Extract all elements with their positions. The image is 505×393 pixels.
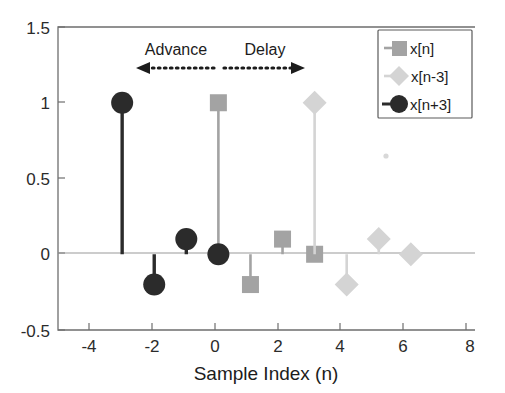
y-tick-label-0: 0 xyxy=(41,245,50,264)
legend[interactable]: x[n] x[n-3] x[n+3] xyxy=(378,30,472,118)
series-xn3 xyxy=(111,92,229,296)
square-marker-icon xyxy=(392,41,407,56)
circle-marker xyxy=(143,274,165,296)
x-tick-marks xyxy=(89,323,466,330)
y-tick-label-neg0p5: -0.5 xyxy=(21,322,50,341)
series-xn xyxy=(210,94,323,293)
square-marker xyxy=(210,94,227,111)
circle-marker xyxy=(207,243,229,265)
y-tick-label-1p5: 1.5 xyxy=(26,19,50,38)
circle-marker-icon xyxy=(390,95,408,113)
diamond-marker xyxy=(303,91,327,115)
delay-arrow-head xyxy=(291,62,305,74)
scan-artifact-speck xyxy=(383,153,388,158)
x-tick-label-neg2: -2 xyxy=(144,337,159,356)
circle-marker xyxy=(175,228,197,250)
diamond-marker xyxy=(367,227,391,251)
diamond-marker xyxy=(399,242,423,266)
stem-plot-figure: 1.5 1 0.5 0 -0.5 -4 -2 0 2 4 6 8 Sample … xyxy=(0,0,505,393)
diamond-marker xyxy=(335,273,359,297)
advance-label: Advance xyxy=(145,41,207,58)
y-tick-label-0p5: 0.5 xyxy=(26,170,50,189)
x-tick-label-8: 8 xyxy=(465,337,474,356)
y-tick-marks xyxy=(58,27,65,330)
annotation-delay: Delay xyxy=(224,41,305,74)
x-tick-label-2: 2 xyxy=(273,337,282,356)
x-tick-label-neg4: -4 xyxy=(81,337,96,356)
y-tick-label-1: 1 xyxy=(41,94,50,113)
x-tick-label-4: 4 xyxy=(335,337,344,356)
square-marker xyxy=(242,276,259,293)
square-marker xyxy=(274,231,291,248)
chart-canvas: 1.5 1 0.5 0 -0.5 -4 -2 0 2 4 6 8 Sample … xyxy=(0,0,505,393)
x-axis-title: Sample Index (n) xyxy=(194,363,339,384)
legend-label-xn: x[n] xyxy=(410,40,434,57)
advance-arrow-head xyxy=(136,62,150,74)
legend-label-xn-plus-3: x[n+3] xyxy=(410,96,451,113)
legend-label-xn-minus-3: x[n-3] xyxy=(411,68,449,85)
delay-label: Delay xyxy=(245,41,286,58)
circle-marker xyxy=(111,92,133,114)
x-tick-label-6: 6 xyxy=(398,337,407,356)
annotation-advance: Advance xyxy=(136,41,214,74)
series-xn3 xyxy=(303,91,423,297)
x-tick-label-0: 0 xyxy=(210,337,219,356)
data-series-layer xyxy=(111,91,423,297)
